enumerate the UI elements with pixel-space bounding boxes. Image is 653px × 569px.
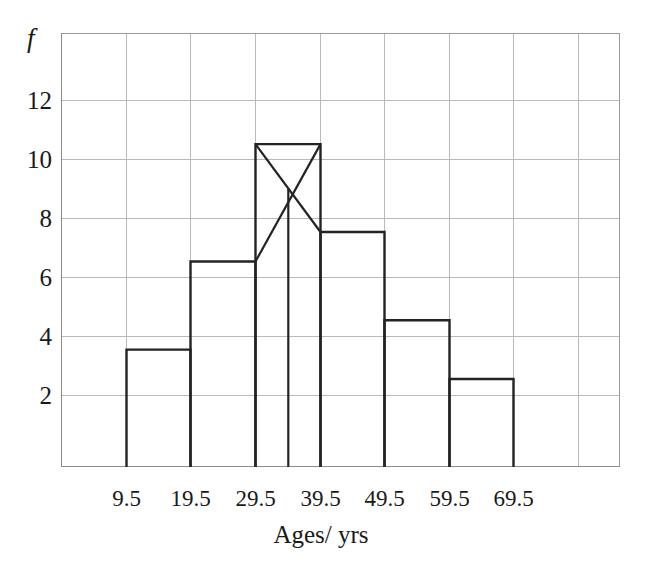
plot-area-background <box>61 33 620 467</box>
x-tick-label-69.5: 69.5 <box>480 487 547 510</box>
x-tick-label-49.5: 49.5 <box>351 487 418 510</box>
histogram-chart: f 12 10 8 6 4 2 9.5 19.5 29.5 39.5 49.5 … <box>0 0 653 569</box>
x-tick-label-39.5: 39.5 <box>287 487 354 510</box>
y-axis-label: f <box>27 25 35 52</box>
y-tick-label-10: 10 <box>8 147 52 172</box>
y-tick-label-4: 4 <box>8 324 52 349</box>
x-tick-label-29.5: 29.5 <box>222 487 289 510</box>
x-axis-title: Ages/ yrs <box>221 522 421 547</box>
y-tick-label-2: 2 <box>8 383 52 408</box>
y-tick-label-8: 8 <box>8 206 52 231</box>
chart-canvas <box>0 0 653 569</box>
x-tick-label-19.5: 19.5 <box>157 487 224 510</box>
y-tick-label-12: 12 <box>8 88 52 113</box>
x-tick-label-59.5: 59.5 <box>416 487 483 510</box>
y-tick-label-6: 6 <box>8 265 52 290</box>
x-tick-label-9.5: 9.5 <box>94 487 159 510</box>
